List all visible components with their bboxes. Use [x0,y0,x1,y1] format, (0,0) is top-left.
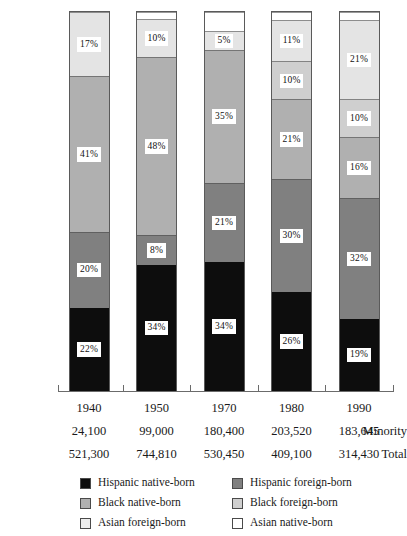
legend-item-0: Hispanic native-born [80,474,195,492]
segment-value-label: 34% [212,319,235,334]
segment-1990-1: 32% [340,198,379,319]
segment-1980-0: 26% [272,292,311,391]
x-axis-tick-2 [190,385,191,392]
segment-1990-3: 10% [340,99,379,137]
segment-1990-5 [340,12,379,20]
year-label-row: 19401950197019801990 [0,398,407,418]
stacked-bar-chart-figure: 22%20%41%17%34%8%48%10%34%21%35%5%26%30%… [0,0,407,536]
segment-1970-4: 5% [205,31,244,50]
segment-1940-0: 22% [70,308,109,391]
segment-1950-1: 8% [137,235,176,265]
segment-1980-2: 21% [272,99,311,179]
x-axis-tick-4 [325,385,326,392]
segment-value-label: 34% [145,321,168,336]
legend-swatch-icon [80,498,91,509]
legend-item-3: Black foreign-born [232,494,338,512]
x-axis-tick-5 [393,385,394,392]
chart-legend: Hispanic native-bornBlack native-bornAsi… [0,474,407,536]
year-label-1970: 1970 [186,398,262,418]
bar-1980: 26%30%21%10%11% [271,11,312,392]
legend-label: Asian foreign-born [98,517,186,529]
minority-value-1940: 24,100 [51,421,127,441]
segment-1970-1: 21% [205,183,244,263]
segment-value-label: 10% [347,111,370,126]
bar-1970: 34%21%35%5% [204,11,245,392]
total-value-1970: 530,450 [186,444,262,464]
segment-value-label: 41% [77,147,100,162]
legend-item-5: Asian native-born [232,514,333,532]
segment-value-label: 21% [280,132,303,147]
segment-1950-2: 48% [137,57,176,235]
segment-value-label: 30% [280,229,303,244]
segment-value-label: 48% [145,139,168,154]
total-data-row: Total 521,300744,810530,450409,100314,43… [0,444,407,464]
segment-value-label: 16% [347,161,370,176]
segment-1970-2: 35% [205,50,244,183]
segment-1990-0: 19% [340,319,379,391]
legend-item-2: Black native-born [80,494,181,512]
minority-value-1970: 180,400 [186,421,262,441]
segment-1950-5 [137,12,176,19]
segment-value-label: 10% [145,31,168,46]
bar-1950: 34%8%48%10% [136,11,177,392]
legend-label: Hispanic native-born [98,477,195,489]
segment-1950-0: 34% [137,265,176,391]
segment-value-label: 10% [280,74,303,89]
segment-1980-1: 30% [272,179,311,293]
segment-value-label: 11% [280,34,303,49]
total-value-1950: 744,810 [119,444,195,464]
segment-value-label: 17% [77,37,100,52]
total-value-1990: 314,430 [321,444,397,464]
segment-1950-4: 10% [137,19,176,56]
x-axis-line [58,391,394,392]
x-axis-tick-3 [258,385,259,392]
segment-value-label: 32% [347,252,370,267]
year-label-1980: 1980 [254,398,330,418]
segment-value-label: 35% [212,109,235,124]
bar-1940: 22%20%41%17% [69,11,110,392]
segment-1980-5 [272,12,311,20]
legend-swatch-icon [80,478,91,489]
segment-1990-2: 16% [340,137,379,198]
year-label-1990: 1990 [321,398,397,418]
segment-1940-2: 41% [70,76,109,231]
total-value-1940: 521,300 [51,444,127,464]
x-axis-tick-1 [123,385,124,392]
legend-swatch-icon [232,498,243,509]
segment-value-label: 21% [347,53,370,68]
year-label-1940: 1940 [51,398,127,418]
segment-1970-5 [205,12,244,31]
segment-value-label: 26% [280,334,303,349]
legend-item-4: Asian foreign-born [80,514,186,532]
segment-1980-3: 10% [272,61,311,99]
legend-swatch-icon [80,518,91,529]
total-value-1980: 409,100 [254,444,330,464]
plot-area: 22%20%41%17%34%8%48%10%34%21%35%5%26%30%… [0,0,407,392]
legend-label: Black foreign-born [250,497,338,509]
legend-swatch-icon [232,518,243,529]
segment-value-label: 22% [77,342,100,357]
minority-value-1980: 203,520 [254,421,330,441]
legend-label: Asian native-born [250,517,333,529]
segment-value-label: 21% [212,216,235,231]
segment-1980-4: 11% [272,20,311,62]
legend-swatch-icon [232,478,243,489]
segment-1940-1: 20% [70,232,109,308]
segment-value-label: 20% [77,263,100,278]
segment-value-label: 8% [147,243,165,258]
minority-data-row: Minority 24,10099,000180,400203,520183,6… [0,421,407,441]
legend-item-1: Hispanic foreign-born [232,474,352,492]
legend-label: Black native-born [98,497,181,509]
segment-1940-4: 17% [70,12,109,76]
minority-value-1990: 183,645 [321,421,397,441]
bar-1990: 19%32%16%10%21% [339,11,380,392]
minority-value-1950: 99,000 [119,421,195,441]
segment-1990-4: 21% [340,20,379,100]
year-label-1950: 1950 [119,398,195,418]
segment-value-label: 19% [347,348,370,363]
segment-1970-0: 34% [205,262,244,391]
segment-value-label: 5% [215,34,233,49]
legend-label: Hispanic foreign-born [250,477,352,489]
x-axis-tick-0 [58,385,59,392]
